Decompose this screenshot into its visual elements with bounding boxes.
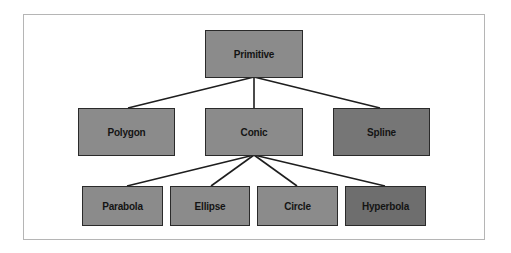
node-ellipse: Ellipse [170,186,250,226]
node-circle: Circle [257,186,338,226]
node-primitive: Primitive [205,30,303,78]
edge-primitive-polygon [128,77,254,108]
node-label: Parabola [102,201,143,212]
node-polygon: Polygon [78,108,175,156]
node-label: Polygon [107,127,145,138]
node-label: Primitive [234,49,274,60]
edge-primitive-spline [254,77,380,108]
node-label: Conic [241,127,268,138]
node-parabola: Parabola [82,186,163,226]
node-spline: Spline [333,108,430,156]
node-label: Spline [367,127,396,138]
node-label: Hyperbola [362,201,409,212]
node-label: Ellipse [195,201,226,212]
edge-conic-hyperbola [254,155,385,186]
node-conic: Conic [205,108,303,156]
node-label: Circle [284,201,311,212]
node-hyperbola: Hyperbola [345,186,426,226]
edge-conic-parabola [127,155,254,186]
